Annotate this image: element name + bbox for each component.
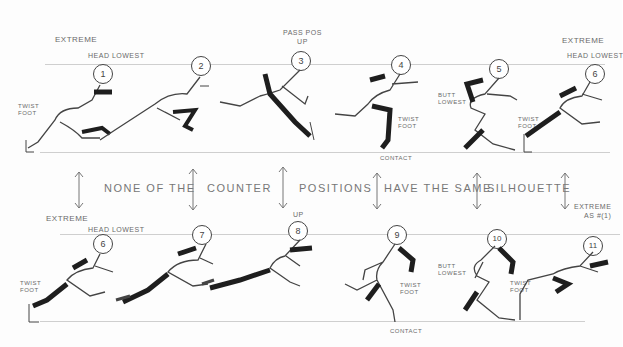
caption-none-of-the: NONE OF THE <box>104 184 195 193</box>
caption-counter: COUNTER <box>207 184 272 193</box>
note-extreme-1: EXTREME <box>55 35 97 44</box>
note-head-lowest-6-top: HEAD LOWEST <box>567 51 623 60</box>
note-contact-9: CONTACT <box>390 327 422 336</box>
note-head-lowest-1: HEAD LOWEST <box>88 51 144 60</box>
runner-figure-8 <box>190 236 320 306</box>
note-extreme-as-1: EXTREME AS #(1) <box>574 202 611 220</box>
note-contact-4: CONTACT <box>380 154 412 163</box>
note-pass-pos-up: PASS POS UP <box>283 28 322 46</box>
double-arrow-icon-3 <box>278 165 288 210</box>
double-arrow-icon-1 <box>74 170 84 210</box>
top-head-guide-line <box>45 64 605 65</box>
double-arrow-icon-6 <box>560 171 570 211</box>
caption-positions: POSITIONS <box>299 184 372 193</box>
double-arrow-icon-2 <box>188 167 198 212</box>
note-extreme-6-top: EXTREME <box>562 36 604 45</box>
runner-figure-11 <box>508 248 618 324</box>
runner-figure-2 <box>95 72 210 147</box>
bottom-head-guide-line <box>60 234 620 235</box>
runner-figure-3 <box>210 66 320 146</box>
runner-figure-5 <box>455 74 525 154</box>
runner-figure-6-top <box>520 78 610 154</box>
double-arrow-icon-5 <box>472 171 482 211</box>
runner-figure-4 <box>330 70 430 150</box>
runner-figure-9 <box>335 240 435 325</box>
caption-silhouette: SILHOUETTE <box>487 184 571 193</box>
double-arrow-icon-4 <box>372 171 382 211</box>
note-head-lowest-6-bottom: HEAD LOWEST <box>88 225 144 234</box>
note-extreme-6-bottom: EXTREME <box>46 214 88 223</box>
note-up-8: UP <box>293 210 304 219</box>
